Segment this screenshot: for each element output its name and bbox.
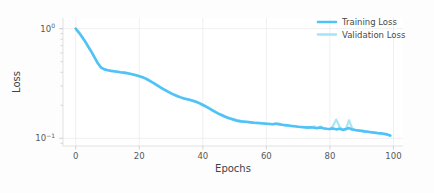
x-tick-marks — [76, 146, 394, 150]
y-tick-labels: 10010−1 — [35, 22, 55, 143]
x-tick-label: 60 — [261, 151, 272, 161]
y-axis-title: Loss — [11, 71, 22, 93]
x-tick-label: 0 — [73, 151, 78, 161]
x-tick-label: 20 — [134, 151, 145, 161]
x-tick-label: 40 — [197, 151, 208, 161]
x-tick-label: 100 — [385, 151, 401, 161]
x-tick-labels: 020406080100 — [73, 151, 402, 161]
loss-curve-chart: 020406080100 10010−1 Epochs Loss Trainin… — [0, 0, 434, 193]
x-tick-label: 80 — [325, 151, 336, 161]
chart-figure: 020406080100 10010−1 Epochs Loss Trainin… — [0, 0, 434, 193]
y-tick-label: 10−1 — [35, 132, 55, 144]
legend-label-validation-loss: Validation Loss — [342, 30, 406, 40]
x-axis-title: Epochs — [215, 163, 251, 174]
y-tick-label: 100 — [40, 22, 55, 34]
legend-label-training-loss: Training Loss — [341, 17, 397, 27]
